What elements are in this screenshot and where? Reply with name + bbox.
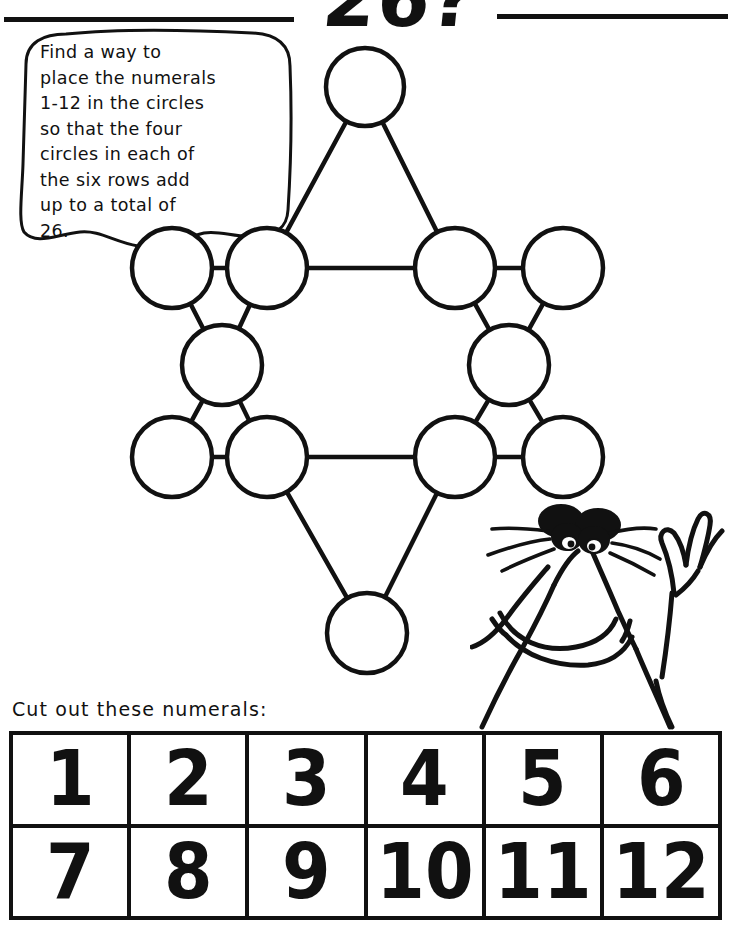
worksheet-page: 26? Find a way to place the numerals 1-1…: [0, 0, 732, 934]
diagram-edge: [285, 120, 347, 235]
numeral-row-top: 123456: [13, 735, 718, 828]
numeral-value: 6: [637, 740, 686, 818]
numeral-cell-7[interactable]: 7: [13, 828, 131, 917]
numeral-value: 4: [400, 740, 449, 818]
numeral-cell-12[interactable]: 12: [604, 828, 718, 917]
circle-outline[interactable]: [415, 417, 495, 497]
numeral-value: 8: [164, 833, 213, 911]
puzzle-circle-upper-right-outer[interactable]: [523, 228, 603, 308]
numeral-value: 5: [518, 740, 567, 818]
puzzle-circle-upper-right-inner[interactable]: [415, 228, 495, 308]
creature-hand-finger1: [661, 530, 686, 593]
numeral-cutout-grid: 123456 789101112: [9, 731, 722, 920]
creature-right-pupil: [589, 544, 596, 551]
diagram-edge: [528, 398, 544, 424]
diagram-edge: [190, 398, 204, 423]
diagram-edge: [384, 491, 438, 599]
circle-outline[interactable]: [132, 417, 212, 497]
puzzle-circle-lower-right-outer[interactable]: [523, 417, 603, 497]
creature-left-cheek: [472, 567, 548, 647]
numeral-value: 7: [46, 833, 95, 911]
creature-arm: [662, 593, 672, 677]
circle-outline[interactable]: [523, 417, 603, 497]
puzzle-circle-lower-left-outer[interactable]: [132, 417, 212, 497]
numeral-value: 9: [282, 833, 331, 911]
numeral-value: 1: [46, 740, 95, 818]
puzzle-circle-bottom[interactable]: [327, 593, 407, 673]
circle-outline[interactable]: [523, 228, 603, 308]
creature-snout-left: [554, 551, 578, 585]
numeral-value: 2: [164, 740, 213, 818]
circle-outline[interactable]: [415, 228, 495, 308]
numeral-cell-10[interactable]: 10: [368, 828, 486, 917]
diagram-edge: [474, 398, 490, 424]
numeral-cell-11[interactable]: 11: [486, 828, 604, 917]
diagram-edge: [527, 301, 544, 332]
diagram-edge: [381, 120, 438, 234]
numeral-cell-9[interactable]: 9: [249, 828, 367, 917]
numeral-row-bottom: 789101112: [13, 828, 718, 917]
diagram-edge: [189, 302, 204, 331]
numeral-cell-3[interactable]: 3: [249, 735, 367, 824]
circle-outline[interactable]: [227, 228, 307, 308]
creature-whisker-l1: [492, 528, 548, 531]
numeral-cell-4[interactable]: 4: [368, 735, 486, 824]
circle-outline[interactable]: [469, 325, 549, 405]
numeral-value: 10: [376, 833, 473, 911]
creature-hand-finger2: [686, 513, 710, 567]
circle-outline[interactable]: [182, 325, 262, 405]
numeral-value: 11: [494, 833, 591, 911]
numeral-cell-1[interactable]: 1: [13, 735, 131, 824]
diagram-edge: [473, 301, 490, 332]
numeral-cell-6[interactable]: 6: [604, 735, 718, 824]
circle-outline[interactable]: [326, 48, 404, 126]
diagram-edge: [238, 302, 251, 330]
diagram-edge: [286, 490, 348, 600]
creature-snout-right: [592, 551, 636, 649]
creature-left-pupil: [568, 541, 575, 548]
numeral-cell-2[interactable]: 2: [131, 735, 249, 824]
circle-outline[interactable]: [132, 228, 212, 308]
numeral-cell-8[interactable]: 8: [131, 828, 249, 917]
puzzle-circle-middle-left[interactable]: [182, 325, 262, 405]
numeral-cell-5[interactable]: 5: [486, 735, 604, 824]
numeral-value: 12: [612, 833, 709, 911]
puzzle-circle-top[interactable]: [326, 48, 404, 126]
puzzle-circle-middle-right[interactable]: [469, 325, 549, 405]
puzzle-circle-lower-left-inner[interactable]: [227, 417, 307, 497]
cartoon-creature: [470, 495, 725, 730]
circle-outline[interactable]: [327, 593, 407, 673]
puzzle-circle-lower-right-inner[interactable]: [415, 417, 495, 497]
puzzle-circle-upper-left-inner[interactable]: [227, 228, 307, 308]
cutout-label: Cut out these numerals:: [12, 698, 267, 720]
creature-whisker-r3: [610, 553, 654, 575]
circle-outline[interactable]: [227, 417, 307, 497]
numeral-value: 3: [282, 740, 331, 818]
puzzle-circle-upper-left-outer[interactable]: [132, 228, 212, 308]
creature-hand-palm: [676, 571, 698, 595]
